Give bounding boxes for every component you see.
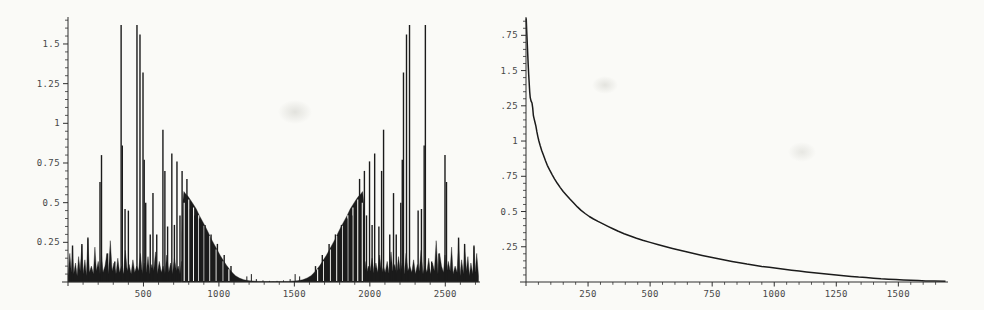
- y-tick-label: 0.75: [37, 158, 60, 168]
- x-tick-label: 750: [703, 289, 720, 299]
- x-tick-label: 1500: [887, 289, 910, 299]
- x-tick-label: 1000: [207, 289, 230, 299]
- noise-floor-area: [68, 239, 479, 282]
- y-tick-label: 1: [54, 118, 60, 128]
- y-tick-label: 1.5: [501, 66, 518, 76]
- x-tick-label: 1500: [283, 289, 306, 299]
- axes: [520, 17, 948, 286]
- x-tick-label: 250: [579, 289, 596, 299]
- x-tick-label: 500: [641, 289, 658, 299]
- y-tick-label: 0.5: [501, 207, 518, 217]
- x-tick-label: 1000: [763, 289, 786, 299]
- x-tick-label: 2000: [358, 289, 381, 299]
- decay-curve-line: [526, 18, 945, 281]
- tick-labels: 2505007501000125015000.250.50.7511.251.5…: [500, 30, 910, 299]
- axis-ticks: [521, 21, 936, 286]
- spectrum-chart: 50010001500200025000.250.50.7511.251.5: [0, 0, 500, 310]
- y-tick-label: 0.25: [37, 237, 60, 247]
- y-tick-label: 1.75: [500, 30, 518, 40]
- y-tick-label: 1.5: [43, 39, 60, 49]
- spectral-spikes: [73, 25, 474, 282]
- center-dip-bumps: [247, 274, 300, 282]
- y-tick-label: 0.5: [43, 198, 60, 208]
- x-tick-label: 2500: [434, 289, 457, 299]
- scanned-figure-page: 50010001500200025000.250.50.7511.251.5 2…: [0, 0, 984, 310]
- x-tick-label: 500: [135, 289, 152, 299]
- x-tick-label: 1250: [825, 289, 848, 299]
- y-tick-label: 1: [512, 136, 518, 146]
- y-tick-label: 1.25: [37, 79, 60, 89]
- y-tick-label: 0.75: [500, 171, 518, 181]
- y-tick-label: 0.25: [500, 242, 518, 252]
- y-tick-label: 1.25: [500, 101, 518, 111]
- decay-curve-chart: 2505007501000125015000.250.50.7511.251.5…: [500, 0, 984, 310]
